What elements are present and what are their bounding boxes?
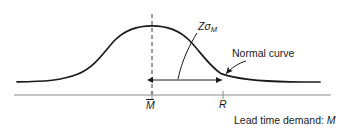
mean-axis-label: M bbox=[146, 99, 155, 111]
z-sigma-leader-line bbox=[178, 33, 197, 79]
normal-curve-label: Normal curve bbox=[232, 48, 294, 59]
axis-caption: Lead time demand: M bbox=[234, 115, 336, 126]
z-sigma-label: ZσM bbox=[198, 21, 217, 33]
z-sigma-label-text: Zσ bbox=[198, 20, 211, 32]
reorder-point-axis-label: R bbox=[219, 99, 227, 110]
mean-axis-label-text: M bbox=[146, 99, 155, 111]
z-sigma-label-subscript: M bbox=[211, 25, 217, 34]
axis-caption-text: Lead time demand: bbox=[234, 114, 327, 126]
normal-curve-diagram: ZσM Normal curve M R Lead time demand: M bbox=[0, 0, 349, 133]
axis-caption-variable: M bbox=[327, 114, 336, 126]
normal-curve-leader-line bbox=[226, 61, 246, 74]
